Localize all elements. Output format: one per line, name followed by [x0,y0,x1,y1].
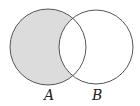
set-b-circle [59,10,133,84]
venn-diagram: A B [0,0,140,106]
set-a-label: A [42,87,54,103]
set-b-label: B [91,87,102,103]
